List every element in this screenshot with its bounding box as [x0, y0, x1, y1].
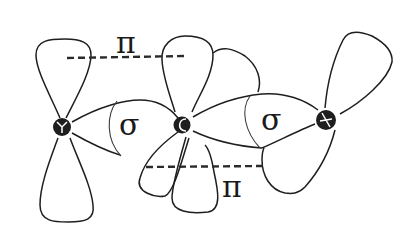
sigma-bond-right-upper	[193, 94, 318, 117]
right-oxygen-p-lobe-lower	[262, 130, 335, 193]
carbon-core	[174, 117, 191, 134]
carbon-p-lobe-upper	[162, 36, 213, 112]
pi-label-bottom: π	[222, 172, 242, 202]
carbon-p-lobe-lower	[172, 137, 218, 213]
sigma-label-right: σ	[261, 105, 281, 135]
pi-bond-bottom-dashed-line	[146, 166, 264, 167]
sigma-bond-right-lower	[193, 131, 262, 148]
pi-label-top: π	[116, 28, 136, 58]
carbon-p-lobe-lower-tilted	[139, 132, 189, 196]
left-oxygen-p-lobe-upper	[36, 39, 91, 118]
left-oxygen-p-lobe-lower	[40, 138, 93, 222]
sigma-right-inner-curve	[245, 96, 260, 148]
right-oxygen-p-lobe-upper	[325, 32, 392, 114]
sigma-label-left: σ	[119, 110, 139, 140]
co2-orbital-diagram	[0, 0, 411, 231]
carbon-p-lobe-upper-tilted	[213, 49, 259, 92]
